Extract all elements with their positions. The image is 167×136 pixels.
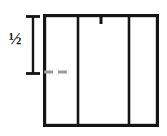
figure-canvas: ½ [0, 0, 167, 136]
dimension-label-half: ½ [4, 27, 26, 51]
half-height-dimension [26, 16, 40, 74]
line-drawing-svg [0, 0, 167, 136]
